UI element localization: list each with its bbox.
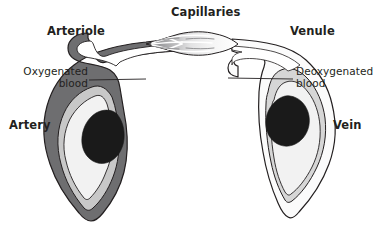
label-artery: Artery (9, 119, 51, 133)
artery-vessel-group (44, 33, 186, 221)
label-vein: Vein (333, 119, 362, 133)
label-deoxygenated-blood: Deoxygenated blood (296, 65, 380, 90)
label-venule: Venule (290, 25, 335, 39)
label-capillaries: Capillaries (171, 6, 240, 20)
label-arteriole: Arteriole (47, 25, 105, 39)
label-oxygenated-blood: Oxygenated blood (8, 65, 88, 90)
anatomy-diagram-figure: Arteriole Capillaries Venule Artery Vein… (0, 0, 380, 233)
